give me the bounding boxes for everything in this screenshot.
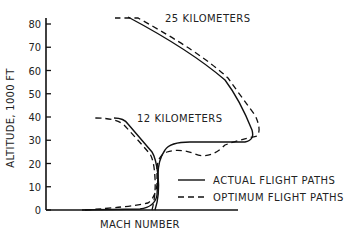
y-tick-label: 10 xyxy=(28,181,41,194)
y-tick-label: 70 xyxy=(28,41,41,54)
x-axis: MACH NUMBER xyxy=(46,210,238,230)
y-axis-title: ALTITUDE, 1000 FT xyxy=(5,68,16,168)
legend: ACTUAL FLIGHT PATHS OPTIMUM FLIGHT PATHS xyxy=(178,175,344,203)
optimum-path-12km xyxy=(95,118,155,210)
y-tick-label: 30 xyxy=(28,134,41,147)
y-tick-label: 0 xyxy=(35,204,41,217)
y-axis: 01020304050607080 ALTITUDE, 1000 FT xyxy=(5,18,51,217)
annotation-25km: 25 KILOMETERS xyxy=(165,13,251,24)
y-tick-label: 50 xyxy=(28,88,41,101)
flight-path-chart: 01020304050607080 ALTITUDE, 1000 FT MACH… xyxy=(0,0,353,239)
legend-actual-label: ACTUAL FLIGHT PATHS xyxy=(213,175,335,186)
legend-optimum-label: OPTIMUM FLIGHT PATHS xyxy=(213,192,344,203)
y-tick-label: 80 xyxy=(28,18,41,31)
y-tick-label: 40 xyxy=(28,111,41,124)
actual-path-12km xyxy=(114,118,159,210)
annotations: 25 KILOMETERS 12 KILOMETERS xyxy=(137,13,251,124)
annotation-12km: 12 KILOMETERS xyxy=(137,113,223,124)
x-axis-title: MACH NUMBER xyxy=(100,219,180,230)
y-tick-label: 20 xyxy=(28,158,41,171)
y-tick-label: 60 xyxy=(28,65,41,78)
